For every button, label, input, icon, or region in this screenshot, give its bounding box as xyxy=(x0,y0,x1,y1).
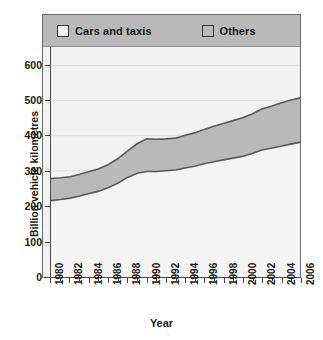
y-axis-labels: 0100200300400500600 xyxy=(0,0,50,340)
x-axis-tick xyxy=(243,278,244,283)
y-axis-tick xyxy=(45,171,50,172)
y-axis-tick-label: 0 xyxy=(36,271,42,283)
x-axis-tick xyxy=(147,278,148,283)
x-axis-tick xyxy=(185,278,186,283)
x-axis-tick xyxy=(89,278,90,283)
legend-item-cars-and-taxis[interactable]: Cars and taxis xyxy=(57,25,152,37)
x-axis-tick-label: 1984 xyxy=(93,263,104,285)
x-axis-tick-label: 1998 xyxy=(228,263,239,285)
x-axis-tick-label: 1980 xyxy=(54,263,65,285)
legend-label-cars-and-taxis: Cars and taxis xyxy=(75,25,152,37)
y-axis-tick xyxy=(45,135,50,136)
x-axis-tick-label: 1988 xyxy=(131,263,142,285)
x-axis-tick-label: 2004 xyxy=(286,263,297,285)
legend-label-others: Others xyxy=(220,25,256,37)
x-axis-tick xyxy=(166,278,167,283)
x-axis-tick xyxy=(69,278,70,283)
x-axis-tick-label: 2000 xyxy=(247,263,258,285)
x-axis-tick xyxy=(108,278,109,283)
y-axis-tick xyxy=(45,65,50,66)
x-axis-tick-label: 1992 xyxy=(170,263,181,285)
y-axis-tick xyxy=(45,206,50,207)
y-axis-tick xyxy=(45,242,50,243)
cars-swatch-icon xyxy=(57,25,69,37)
x-axis-title: Year xyxy=(0,317,323,329)
plot-area xyxy=(51,48,300,277)
x-axis-tick xyxy=(50,278,51,283)
y-axis-tick-label: 600 xyxy=(24,59,42,71)
x-axis-tick xyxy=(301,278,302,283)
x-axis-tick-label: 1996 xyxy=(208,263,219,285)
x-axis-tick-label: 1994 xyxy=(189,263,200,285)
x-axis-tick-label: 1990 xyxy=(151,263,162,285)
y-axis-title: Billion vehicle kilometres xyxy=(28,84,40,264)
y-axis-line xyxy=(50,47,51,278)
chart-figure: Cars and taxis Others 010020030040050060… xyxy=(0,0,323,340)
x-axis-tick xyxy=(262,278,263,283)
x-axis-tick-label: 1982 xyxy=(73,263,84,285)
x-axis-tick-label: 1986 xyxy=(112,263,123,285)
legend-item-others[interactable]: Others xyxy=(202,25,256,37)
plot-svg xyxy=(51,48,300,277)
x-axis-tick xyxy=(224,278,225,283)
x-axis-tick-label: 2006 xyxy=(305,263,316,285)
x-axis-tick xyxy=(282,278,283,283)
others-swatch-icon xyxy=(202,25,214,37)
x-axis-tick-label: 2002 xyxy=(266,263,277,285)
x-axis-tick xyxy=(204,278,205,283)
x-axis-tick xyxy=(127,278,128,283)
chart-frame: Cars and taxis Others xyxy=(42,14,301,278)
chart-legend: Cars and taxis Others xyxy=(43,15,300,47)
y-axis-tick xyxy=(45,100,50,101)
